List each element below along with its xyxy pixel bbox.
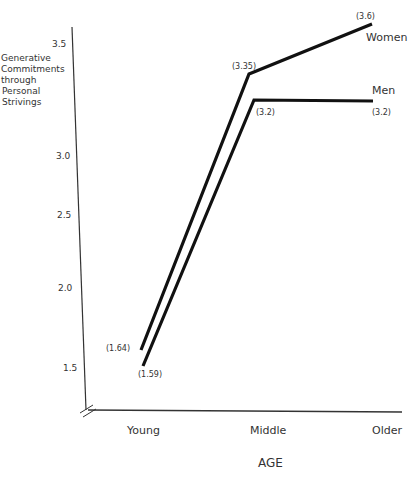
x-axis bbox=[88, 410, 402, 412]
series-women-line bbox=[141, 24, 372, 350]
svg-text:Generative: Generative bbox=[1, 53, 51, 63]
legend-women: Women bbox=[366, 31, 407, 44]
women-older-value: (3.6) bbox=[356, 12, 375, 21]
xtick-middle: Middle bbox=[250, 424, 287, 437]
ytick-3.0: 3.0 bbox=[56, 151, 71, 161]
men-older-value: (3.2) bbox=[372, 108, 391, 117]
axis-break-icon bbox=[80, 405, 96, 417]
svg-text:through: through bbox=[1, 75, 36, 85]
xtick-young: Young bbox=[126, 424, 160, 437]
svg-text:Commitments: Commitments bbox=[1, 64, 65, 74]
ytick-2.0: 2.0 bbox=[58, 283, 73, 293]
men-young-value: (1.59) bbox=[138, 370, 162, 379]
y-axis-label: Generative Commitments through Personal … bbox=[1, 53, 65, 107]
svg-text:Personal: Personal bbox=[2, 86, 40, 96]
ytick-2.5: 2.5 bbox=[57, 210, 71, 220]
x-axis-label: AGE bbox=[258, 456, 283, 470]
xtick-older: Older bbox=[372, 424, 402, 437]
men-middle-value: (3.2) bbox=[256, 108, 275, 117]
legend-men: Men bbox=[372, 84, 395, 97]
y-axis bbox=[72, 27, 86, 410]
women-young-value: (1.64) bbox=[106, 344, 130, 353]
line-chart: 3.5 3.0 2.5 2.0 1.5 Generative Commitmen… bbox=[0, 0, 418, 481]
ytick-3.5: 3.5 bbox=[52, 39, 66, 49]
series-men-line bbox=[143, 100, 373, 366]
women-middle-value: (3.35) bbox=[232, 62, 256, 71]
svg-text:Strivings: Strivings bbox=[2, 97, 42, 107]
ytick-1.5: 1.5 bbox=[63, 363, 77, 373]
